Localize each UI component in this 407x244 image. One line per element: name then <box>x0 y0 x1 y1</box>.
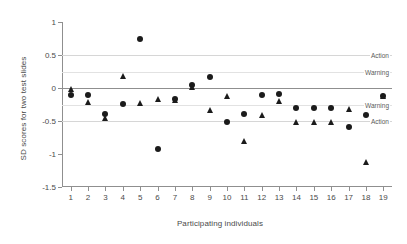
reference-label-action-lower: Action <box>370 118 390 125</box>
x-tick-label-15: 15 <box>309 193 318 202</box>
data-point-s1-x4 <box>120 73 126 79</box>
data-point-s0-x17 <box>346 124 352 130</box>
x-tick-label-5: 5 <box>138 193 142 202</box>
x-tick-label-14: 14 <box>292 193 301 202</box>
x-tick-label-4: 4 <box>121 193 125 202</box>
data-point-s0-x4 <box>120 101 126 107</box>
data-point-s0-x1 <box>68 92 74 98</box>
data-point-s1-x15 <box>311 119 317 125</box>
data-point-s1-x9 <box>207 107 213 113</box>
y-tick-mark <box>58 22 62 23</box>
data-point-s1-x11 <box>241 138 247 144</box>
x-tick-mark-3 <box>105 187 106 191</box>
x-tick-mark-8 <box>192 187 193 191</box>
data-point-s1-x3 <box>102 115 108 121</box>
x-tick-label-11: 11 <box>240 193 248 202</box>
x-tick-mark-19 <box>383 187 384 191</box>
data-point-s1-x6 <box>155 96 161 102</box>
data-point-s0-x13 <box>276 91 282 97</box>
x-tick-label-6: 6 <box>155 193 159 202</box>
data-point-s1-x5 <box>137 100 143 106</box>
y-tick-label: 1 <box>52 18 56 27</box>
data-point-s0-x15 <box>311 105 317 111</box>
reference-label-warning-upper: Warning <box>364 68 390 75</box>
x-tick-mark-18 <box>366 187 367 191</box>
data-point-s1-x8 <box>189 84 195 90</box>
data-point-s0-x14 <box>293 105 299 111</box>
y-tick-label: -1 <box>49 150 56 159</box>
reference-line-warning-upper <box>62 72 392 73</box>
data-point-s1-x7 <box>172 97 178 103</box>
data-point-s1-x10 <box>224 93 230 99</box>
x-tick-mark-9 <box>210 187 211 191</box>
x-tick-mark-16 <box>331 187 332 191</box>
data-point-s1-x18 <box>363 159 369 165</box>
x-tick-mark-13 <box>279 187 280 191</box>
x-tick-mark-11 <box>244 187 245 191</box>
x-tick-mark-15 <box>314 187 315 191</box>
x-tick-label-17: 17 <box>344 193 353 202</box>
reference-line-warning-lower <box>62 105 392 106</box>
x-tick-label-12: 12 <box>257 193 266 202</box>
x-tick-label-1: 1 <box>68 193 72 202</box>
data-point-s0-x2 <box>85 92 91 98</box>
data-point-s1-x16 <box>328 119 334 125</box>
data-point-s0-x10 <box>224 119 230 125</box>
data-point-s1-x13 <box>276 98 282 104</box>
data-point-s0-x5 <box>137 36 143 42</box>
data-point-s1-x12 <box>259 112 265 118</box>
y-tick-label: -0.5 <box>42 117 56 126</box>
data-point-s1-x17 <box>346 106 352 112</box>
y-tick-mark <box>58 121 62 122</box>
x-tick-label-18: 18 <box>361 193 370 202</box>
plot-area: ActionWarningWarningAction 10.50-0.5-1-1… <box>62 22 392 187</box>
x-tick-label-7: 7 <box>173 193 177 202</box>
scatter-chart-figure: SD scores for two test slides ActionWarn… <box>0 0 407 244</box>
x-tick-label-16: 16 <box>327 193 336 202</box>
y-tick-label: 0 <box>52 84 56 93</box>
x-tick-mark-10 <box>227 187 228 191</box>
x-tick-mark-7 <box>175 187 176 191</box>
x-tick-label-3: 3 <box>103 193 107 202</box>
x-tick-mark-2 <box>88 187 89 191</box>
data-point-s1-x2 <box>85 99 91 105</box>
y-tick-mark <box>58 154 62 155</box>
data-point-s1-x1 <box>68 86 74 92</box>
data-point-s0-x18 <box>363 112 369 118</box>
data-point-s0-x6 <box>155 146 161 152</box>
y-tick-mark <box>58 88 62 89</box>
x-tick-mark-6 <box>158 187 159 191</box>
y-axis-title: SD scores for two test slides <box>19 24 28 194</box>
data-point-s0-x16 <box>328 105 334 111</box>
x-axis-title: Participating individuals <box>55 219 385 228</box>
data-point-s0-x11 <box>241 111 247 117</box>
x-tick-mark-1 <box>71 187 72 191</box>
reference-label-action-upper: Action <box>370 52 390 59</box>
x-tick-mark-17 <box>349 187 350 191</box>
y-tick-label: -1.5 <box>42 183 56 192</box>
y-tick-mark <box>58 55 62 56</box>
x-tick-label-13: 13 <box>275 193 284 202</box>
x-tick-label-2: 2 <box>86 193 90 202</box>
x-tick-label-10: 10 <box>223 193 232 202</box>
y-tick-label: 0.5 <box>45 51 56 60</box>
reference-line-zero <box>62 88 392 89</box>
data-point-s1-x14 <box>293 119 299 125</box>
y-tick-mark <box>58 187 62 188</box>
x-tick-label-19: 19 <box>379 193 388 202</box>
x-tick-mark-5 <box>140 187 141 191</box>
x-tick-label-9: 9 <box>207 193 211 202</box>
data-point-s0-x9 <box>207 74 213 80</box>
x-tick-label-8: 8 <box>190 193 194 202</box>
data-point-s0-x12 <box>259 92 265 98</box>
x-tick-mark-14 <box>296 187 297 191</box>
reference-line-action-upper <box>62 55 392 56</box>
reference-label-warning-lower: Warning <box>364 101 390 108</box>
data-point-s1-x19 <box>380 93 386 99</box>
x-tick-mark-4 <box>123 187 124 191</box>
x-tick-mark-12 <box>262 187 263 191</box>
